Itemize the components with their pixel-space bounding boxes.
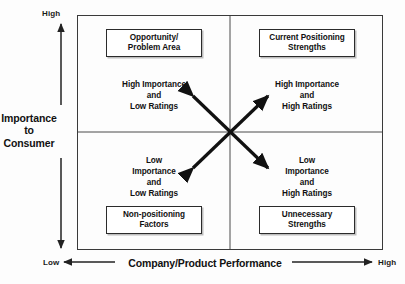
x-axis-title: Company/Product Performance — [118, 257, 292, 269]
callout-opportunity-problem-area: Opportunity/ Problem Area — [106, 29, 202, 57]
quadrant-bottom-left-description: Low Importance and Low Ratings — [104, 155, 204, 199]
quadrant-top-right-description: High Importance and High Ratings — [257, 79, 357, 112]
callout-current-positioning-strengths: Current Positioning Strengths — [259, 29, 355, 57]
callout-non-positioning-factors: Non-positioning Factors — [106, 206, 202, 234]
diagram-canvas: High Low High Importance to Consumer — [0, 0, 405, 284]
callout-unnecessary-strengths: Unnecessary Strengths — [259, 206, 355, 234]
quadrant-bottom-right-description: Low Importance and High Ratings — [257, 155, 357, 199]
quadrant-top-left-description: High Importance and Low Ratings — [104, 79, 204, 112]
